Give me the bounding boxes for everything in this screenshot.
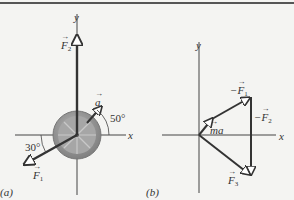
panel-a-caption: (a) bbox=[0, 187, 13, 198]
neg-f1-arrow bbox=[212, 98, 249, 119]
panel-a-x-label: x bbox=[128, 130, 133, 141]
f2-label: F2 bbox=[61, 40, 71, 53]
panel-b-y-label: y bbox=[196, 40, 201, 51]
f1-label: F1 bbox=[33, 170, 43, 183]
angle-arc-30 bbox=[41, 135, 46, 153]
panel-b-x-label: x bbox=[279, 131, 284, 142]
a-label: a bbox=[95, 97, 101, 108]
neg-f2-label: −F2 bbox=[254, 112, 272, 125]
f3-arrow bbox=[199, 135, 249, 174]
f3-label: F3 bbox=[228, 175, 238, 188]
angle-50-label: 50° bbox=[110, 113, 125, 124]
diagram-canvas bbox=[0, 0, 294, 200]
panel-b-caption: (b) bbox=[146, 187, 159, 198]
angle-30-label: 30° bbox=[25, 142, 40, 153]
panel-a-y-label: y bbox=[74, 12, 79, 23]
ma-label: ma bbox=[210, 125, 223, 136]
neg-f1-label: −F1 bbox=[230, 85, 248, 98]
